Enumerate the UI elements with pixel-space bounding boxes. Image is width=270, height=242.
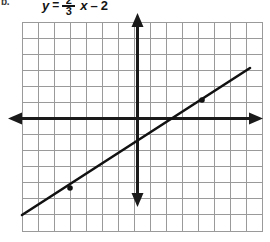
x-axis-left-arrow (8, 113, 22, 125)
y-axis-up-arrow (132, 13, 144, 27)
coordinate-plane (0, 0, 270, 242)
plotted-point (67, 185, 73, 191)
plotted-line (22, 68, 250, 215)
grid-lines (22, 22, 263, 232)
y-axis-down-arrow (132, 193, 144, 207)
plotted-point (199, 97, 205, 103)
graph-figure: b. y = 2 3 x – 2 (0, 0, 270, 242)
x-axis (8, 113, 263, 125)
y-axis (132, 13, 144, 207)
x-axis-right-arrow (249, 113, 263, 125)
